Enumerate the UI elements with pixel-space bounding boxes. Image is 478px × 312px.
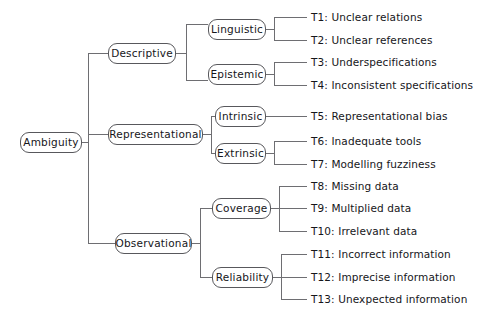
ambiguity-taxonomy-diagram: Ambiguity Descriptive Representational O… <box>0 0 478 312</box>
leaf-t10[interactable]: T10: Irrelevant data <box>311 226 417 237</box>
leaf-t4[interactable]: T4: Inconsistent specifications <box>311 80 473 91</box>
leaf-t9[interactable]: T9: Multiplied data <box>311 203 411 214</box>
leaf-t8[interactable]: T8: Missing data <box>311 181 399 192</box>
leaf-t1[interactable]: T1: Unclear relations <box>311 12 422 23</box>
leaf-t12[interactable]: T12: Imprecise information <box>311 272 455 283</box>
leaf-t13[interactable]: T13: Unexpected information <box>311 294 467 305</box>
node-reliability[interactable]: Reliability <box>212 267 273 288</box>
node-coverage[interactable]: Coverage <box>212 198 271 219</box>
leaf-t11[interactable]: T11: Incorrect information <box>311 249 451 260</box>
node-descriptive[interactable]: Descriptive <box>108 43 176 64</box>
node-linguistic[interactable]: Linguistic <box>208 19 266 40</box>
leaf-t6[interactable]: T6: Inadequate tools <box>311 136 421 147</box>
leaf-t7[interactable]: T7: Modelling fuzziness <box>311 159 436 170</box>
node-observational[interactable]: Observational <box>115 233 192 254</box>
node-extrinsic[interactable]: Extrinsic <box>215 143 266 164</box>
leaf-t5[interactable]: T5: Representational bias <box>311 111 448 122</box>
node-representational[interactable]: Representational <box>108 124 203 145</box>
leaf-t2[interactable]: T2: Unclear references <box>311 35 432 46</box>
node-epistemic[interactable]: Epistemic <box>208 64 266 85</box>
node-ambiguity[interactable]: Ambiguity <box>20 132 82 153</box>
leaf-t3[interactable]: T3: Underspecifications <box>311 57 437 68</box>
node-intrinsic[interactable]: Intrinsic <box>215 106 266 127</box>
